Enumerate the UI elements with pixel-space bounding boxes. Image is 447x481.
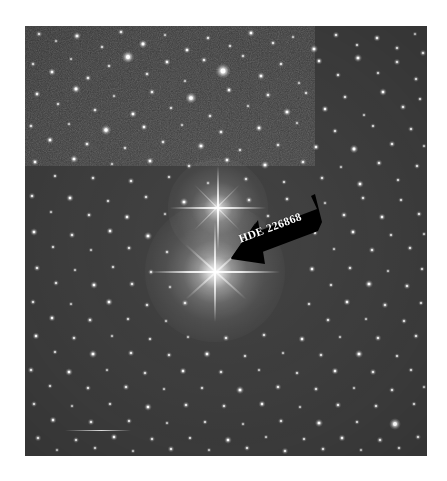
sky-background — [25, 26, 427, 456]
photograph-page: HDE 226868 — [0, 0, 447, 481]
astronomical-plate: HDE 226868 — [25, 26, 427, 456]
